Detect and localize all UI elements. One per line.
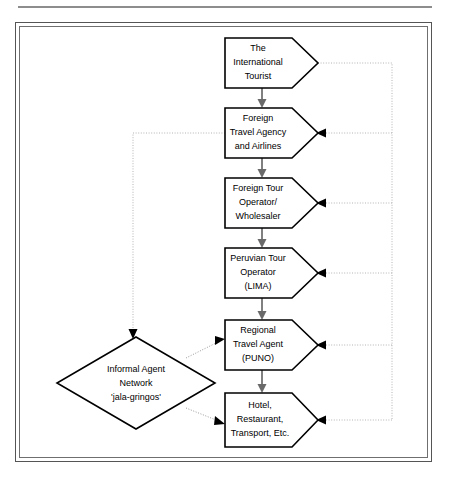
node-n6-line-2: Restaurant, <box>237 414 284 424</box>
node-peruvian-tour-operator-lima[interactable]: Peruvian Tour Operator (LIMA) <box>225 248 318 298</box>
edge-tourist-right-trunk <box>316 63 392 425</box>
node-n4-line-3: (LIMA) <box>245 281 272 291</box>
node-d1-line-1: Informal Agent <box>107 364 166 374</box>
node-n1-line-1: The <box>250 43 266 53</box>
node-n3-line-3: Wholesaler <box>235 211 280 221</box>
flowchart-svg: The International Tourist Foreign Travel… <box>0 0 450 477</box>
node-n3-line-2: Operator/ <box>239 197 278 207</box>
edge-n2-n3-solid <box>258 158 267 178</box>
node-n6-line-3: Transport, Etc. <box>231 428 290 438</box>
node-n1-line-2: International <box>233 57 283 67</box>
page-canvas: The International Tourist Foreign Travel… <box>0 0 450 477</box>
edge-n2-diamond <box>129 133 226 339</box>
node-n5-line-2: Travel Agent <box>233 339 284 349</box>
node-n2-line-1: Foreign <box>243 113 274 123</box>
edge-diamond-n5 <box>186 336 225 358</box>
node-regional-travel-agent-puno[interactable]: Regional Travel Agent (PUNO) <box>225 320 318 370</box>
node-n6-line-1: Hotel, <box>248 400 272 410</box>
node-hotel-restaurant-transport[interactable]: Hotel, Restaurant, Transport, Etc. <box>225 393 318 447</box>
edge-diamond-n6 <box>186 408 225 425</box>
edge-n1-n2-solid <box>258 88 267 108</box>
node-d1-line-3: 'jala-gringos' <box>111 392 161 402</box>
node-n4-line-1: Peruvian Tour <box>230 253 285 263</box>
node-the-international-tourist[interactable]: The International Tourist <box>225 38 318 88</box>
node-n5-line-3: (PUNO) <box>242 353 274 363</box>
node-foreign-travel-agency-and-airlines[interactable]: Foreign Travel Agency and Airlines <box>225 108 318 158</box>
node-informal-agent-network[interactable]: Informal Agent Network 'jala-gringos' <box>57 337 215 429</box>
node-n5-line-1: Regional <box>240 325 276 335</box>
node-n1-line-3: Tourist <box>245 71 272 81</box>
node-foreign-tour-operator-wholesaler[interactable]: Foreign Tour Operator/ Wholesaler <box>225 178 318 228</box>
node-n2-line-3: and Airlines <box>235 141 282 151</box>
edge-n3-n4-solid <box>258 228 267 248</box>
node-n3-line-1: Foreign Tour <box>233 183 283 193</box>
edge-n5-n6-solid <box>258 370 267 393</box>
node-d1-line-2: Network <box>119 378 153 388</box>
node-n4-line-2: Operator <box>240 267 276 277</box>
edge-n4-n5-solid <box>258 298 267 320</box>
node-n2-line-2: Travel Agency <box>230 127 287 137</box>
